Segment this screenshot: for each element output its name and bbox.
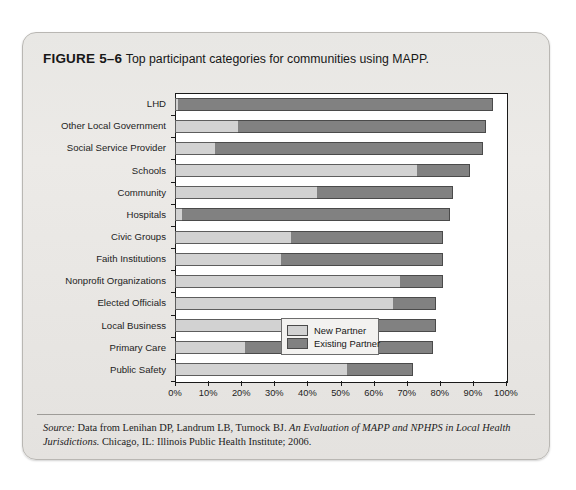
bar-segment-new-partner (175, 186, 317, 199)
y-axis-label: Social Service Provider (67, 143, 166, 153)
bar-segment-new-partner (175, 208, 182, 221)
x-axis-tick (274, 381, 275, 386)
bar-row (175, 120, 506, 133)
legend-entry: New Partner (287, 324, 373, 336)
figure-panel: FIGURE 5–6 Top participant categories fo… (22, 32, 550, 460)
bar-row (175, 164, 506, 177)
figure-title: FIGURE 5–6 Top participant categories fo… (43, 51, 533, 66)
bar-segment-existing-partner (347, 363, 413, 376)
bar-segment-new-partner (175, 341, 245, 354)
y-axis-label: Schools (132, 166, 166, 176)
x-axis-tick (374, 381, 375, 386)
x-axis-label: 100% (494, 388, 518, 398)
x-axis-label: 90% (464, 388, 483, 398)
y-axis-label: LHD (147, 99, 166, 109)
x-axis-tick (440, 381, 441, 386)
chart-legend: New PartnerExisting Partner (281, 318, 379, 355)
source-note: Source: Data from Lenihan DP, Landrum LB… (43, 421, 531, 449)
x-axis-tick (473, 381, 474, 386)
x-axis-label: 50% (331, 388, 350, 398)
y-axis-label: Local Business (101, 321, 166, 331)
bar-row (175, 186, 506, 199)
bar-row (175, 275, 506, 288)
x-axis-tick (208, 381, 209, 386)
bar-segment-existing-partner (238, 120, 486, 133)
bar-row (175, 231, 506, 244)
x-axis-label: 20% (232, 388, 251, 398)
source-divider (37, 414, 535, 415)
legend-swatch (287, 338, 308, 349)
y-axis-label: Public Safety (110, 365, 166, 375)
x-axis-label: 40% (298, 388, 317, 398)
y-axis-label: Nonprofit Organizations (65, 276, 166, 286)
figure-caption: Top participant categories for communiti… (126, 52, 429, 66)
bar-segment-existing-partner (400, 275, 443, 288)
bar-row (175, 142, 506, 155)
y-axis-label: Community (117, 188, 166, 198)
x-axis-label: 10% (199, 388, 218, 398)
bar-segment-new-partner (175, 363, 347, 376)
x-axis-tick (341, 381, 342, 386)
source-publisher: Chicago, IL: Illinois Public Health Inst… (99, 436, 311, 447)
y-axis-label: Faith Institutions (96, 254, 166, 264)
bar-segment-new-partner (175, 120, 238, 133)
x-axis-tick (307, 381, 308, 386)
source-label: Source: (43, 422, 75, 433)
bar-segment-new-partner (175, 297, 393, 310)
bar-row (175, 253, 506, 266)
bar-row (175, 363, 506, 376)
bar-segment-new-partner (175, 275, 400, 288)
bar-segment-existing-partner (317, 186, 453, 199)
figure-number: FIGURE 5–6 (43, 51, 122, 66)
bar-row (175, 297, 506, 310)
bar-segment-new-partner (175, 164, 417, 177)
y-axis-label: Other Local Government (61, 121, 166, 131)
x-axis: 0%10%20%30%40%50%60%70%80%90%100% (175, 381, 508, 407)
legend-entry: Existing Partner (287, 337, 373, 349)
chart-region: LHDOther Local GovernmentSocial Service … (33, 81, 541, 411)
bar-segment-new-partner (175, 231, 291, 244)
bar-segment-new-partner (175, 142, 215, 155)
bar-segment-existing-partner (182, 208, 450, 221)
bar-row (175, 98, 506, 111)
bar-segment-existing-partner (178, 98, 492, 111)
x-axis-tick (407, 381, 408, 386)
bar-segment-new-partner (175, 253, 281, 266)
y-axis-label: Civic Groups (111, 232, 166, 242)
bar-segment-existing-partner (281, 253, 443, 266)
x-axis-label: 30% (265, 388, 284, 398)
x-axis-tick (175, 381, 176, 386)
legend-label: New Partner (314, 325, 366, 336)
x-axis-tick (506, 381, 507, 386)
x-axis-label: 60% (364, 388, 383, 398)
y-axis-label: Primary Care (109, 343, 166, 353)
bar-row (175, 208, 506, 221)
bar-segment-existing-partner (291, 231, 443, 244)
legend-swatch (287, 325, 308, 336)
bar-segment-existing-partner (215, 142, 483, 155)
source-authors: Data from Lenihan DP, Landrum LB, Turnoc… (75, 422, 289, 433)
y-axis-label: Hospitals (127, 210, 166, 220)
legend-label: Existing Partner (314, 338, 380, 349)
x-axis-label: 70% (397, 388, 416, 398)
bar-segment-existing-partner (393, 297, 436, 310)
x-axis-label: 80% (430, 388, 449, 398)
y-axis-labels: LHDOther Local GovernmentSocial Service … (33, 93, 171, 381)
bar-segment-existing-partner (417, 164, 470, 177)
y-axis-label: Elected Officials (97, 298, 166, 308)
x-axis-tick (241, 381, 242, 386)
x-axis-label: 0% (168, 388, 181, 398)
